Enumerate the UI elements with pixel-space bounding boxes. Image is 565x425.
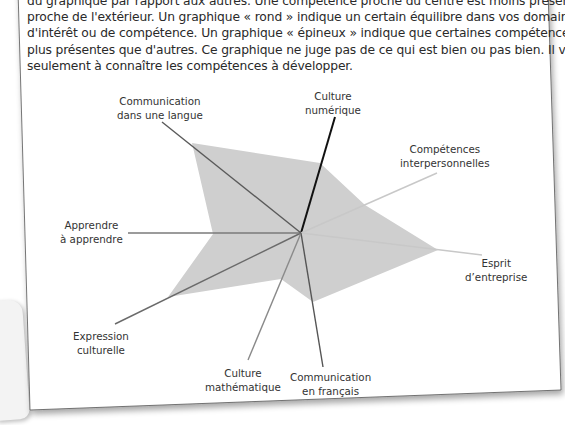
axis-label-apprendre-a-apprendre: Apprendre à apprendre <box>60 219 123 246</box>
label-line: culturelle <box>73 344 129 358</box>
axis-label-culture-numerique: Culture numérique <box>305 90 361 117</box>
axis-label-communication-francais: Communication en français <box>290 371 371 398</box>
label-line: Expression <box>73 330 129 344</box>
label-line: Culture <box>205 367 281 381</box>
description-paragraph: du graphique par rapport aux autres. Une… <box>27 0 547 74</box>
paragraph-line: proche de l'extérieur. Un graphique « ro… <box>27 9 547 25</box>
label-line: Compétences <box>400 143 490 157</box>
paragraph-line: du graphique par rapport aux autres. Une… <box>27 0 547 9</box>
label-line: interpersonnelles <box>400 157 490 171</box>
label-line: dans une langue <box>117 109 203 123</box>
label-line: Esprit <box>465 257 527 271</box>
label-line: Culture <box>305 90 361 104</box>
label-line: Communication <box>290 371 371 385</box>
axis-label-esprit-entreprise: Esprit d’entreprise <box>465 257 527 284</box>
axis-label-competences-interpersonnelles: Compétences interpersonnelles <box>400 143 490 170</box>
label-line: numérique <box>305 104 361 118</box>
paragraph-line: plus présentes que d'autres. Ce graphiqu… <box>27 42 547 58</box>
paragraph-line: d'intérêt ou de compétence. Un graphique… <box>27 25 547 41</box>
axis-label-expression-culturelle: Expression culturelle <box>73 330 129 357</box>
axis-label-culture-mathematique: Culture mathématique <box>205 367 281 394</box>
paragraph-line: seulement à connaître les compétences à … <box>27 58 547 74</box>
label-line: Communication <box>117 95 203 109</box>
label-line: Apprendre <box>60 219 123 233</box>
label-line: mathématique <box>205 381 281 395</box>
label-line: en français <box>290 385 371 399</box>
label-line: d’entreprise <box>465 271 527 285</box>
label-line: à apprendre <box>60 233 123 247</box>
axis-label-communication-langue: Communication dans une langue <box>117 95 203 122</box>
